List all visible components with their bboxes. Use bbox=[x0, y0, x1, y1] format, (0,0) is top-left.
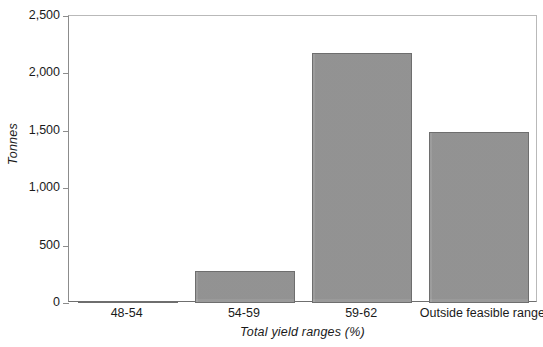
y-axis-tick-mark bbox=[63, 16, 69, 17]
bar bbox=[78, 301, 178, 303]
y-axis-tick-label: 1,000 bbox=[8, 181, 60, 193]
bar bbox=[195, 271, 295, 303]
y-axis-tick-label: 500 bbox=[8, 239, 60, 251]
x-axis-tick-labels: 48-5454-5959-62Outside feasible range bbox=[68, 306, 537, 324]
y-axis-tick-label: 2,500 bbox=[8, 9, 60, 21]
bar bbox=[429, 132, 529, 303]
y-axis-tick-label: 1,500 bbox=[8, 124, 60, 136]
y-axis-tick-mark bbox=[63, 188, 69, 189]
x-axis-title: Total yield ranges (%) bbox=[68, 325, 537, 339]
bar-series bbox=[69, 16, 538, 303]
y-axis-tick-label: 2,000 bbox=[8, 66, 60, 78]
x-axis-tick-label: 59-62 bbox=[303, 306, 420, 320]
x-axis-tick-label: 48-54 bbox=[68, 306, 185, 320]
y-axis-tick-mark bbox=[63, 303, 69, 304]
y-axis-tick-mark bbox=[63, 73, 69, 74]
bar-chart-figure: Tonnes 05001,0001,5002,0002,500 48-5454-… bbox=[0, 0, 543, 347]
y-axis-tick-label: 0 bbox=[8, 296, 60, 308]
y-axis-tick-mark bbox=[63, 131, 69, 132]
x-axis-tick-label: 54-59 bbox=[185, 306, 302, 320]
bar bbox=[312, 53, 412, 303]
y-axis-tick-labels: 05001,0001,5002,0002,500 bbox=[8, 0, 60, 347]
plot-area bbox=[68, 15, 537, 302]
x-axis-tick-label: Outside feasible range bbox=[420, 306, 537, 320]
y-axis-tick-mark bbox=[63, 246, 69, 247]
